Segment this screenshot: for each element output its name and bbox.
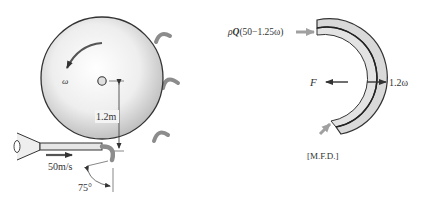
diagram-canvas: ω 1.2m 50m/s 75°	[0, 0, 429, 200]
bucket-middle	[163, 79, 178, 88]
inflow-expression: (50−1.25ω)	[239, 27, 283, 38]
blade-control-volume-figure: ρQ(50−1.25ω) F 1.2ω [M.F.D.]	[227, 19, 409, 161]
bucket-at-jet	[102, 146, 113, 160]
angle-label: 75°	[78, 182, 92, 193]
force-label: F	[309, 76, 317, 88]
jet-velocity-label: 50m/s	[48, 161, 73, 172]
bucket-lower	[154, 133, 168, 141]
pelton-wheel-figure: ω 1.2m 50m/s 75°	[14, 17, 178, 193]
bucket-top	[156, 34, 170, 42]
inflow-label: ρQ(50−1.25ω)	[227, 27, 284, 38]
rotation-label: ω	[62, 76, 68, 86]
angle-ray-1	[87, 161, 108, 166]
outflow-arrow-icon	[320, 124, 330, 134]
wheel-hub	[98, 77, 106, 85]
figure-caption: [M.F.D.]	[307, 151, 339, 161]
blade-velocity-label: 1.2ω	[389, 77, 409, 88]
radius-label: 1.2m	[96, 111, 117, 122]
